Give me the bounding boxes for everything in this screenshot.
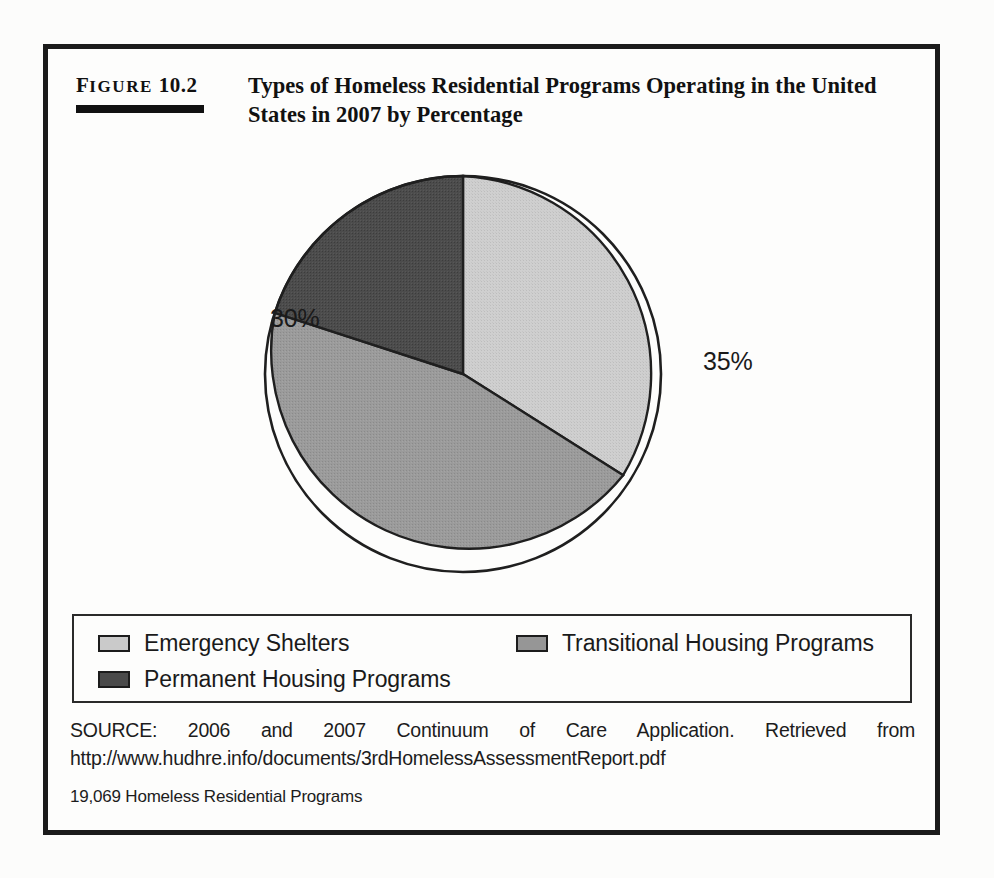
figure-container: FIGURE 10.2 Types of Homeless Residentia…: [43, 44, 940, 835]
legend-item-transitional-housing-programs: Transitional Housing Programs: [516, 630, 874, 657]
legend-label-permanent-housing-programs: Permanent Housing Programs: [144, 666, 451, 693]
figure-number: FIGURE 10.2: [76, 73, 248, 98]
chart-legend: Emergency Shelters Transitional Housing …: [72, 614, 912, 703]
source-block: SOURCE: 2006 and 2007 Continuum of Care …: [70, 717, 915, 807]
pie-value-label-permanent-housing-programs: 30%: [270, 304, 319, 333]
figure-number-prefix: F: [76, 73, 89, 97]
legend-item-emergency-shelters: Emergency Shelters: [98, 630, 349, 657]
page-title: Types of Homeless Residential Programs O…: [248, 71, 915, 129]
legend-swatch-permanent-housing-programs: [98, 671, 130, 688]
pie-value-label-emergency-shelters: 35%: [703, 347, 752, 376]
legend-label-transitional-housing-programs: Transitional Housing Programs: [562, 630, 874, 657]
figure-number-word: IGURE: [89, 77, 153, 96]
figure-title-block: FIGURE 10.2 Types of Homeless Residentia…: [76, 71, 915, 129]
source-note: 19,069 Homeless Residential Programs: [70, 787, 915, 807]
legend-label-emergency-shelters: Emergency Shelters: [144, 630, 349, 657]
figure-number-value: 10.2: [159, 73, 198, 97]
legend-swatch-emergency-shelters: [98, 635, 130, 652]
legend-item-permanent-housing-programs: Permanent Housing Programs: [98, 666, 451, 693]
legend-swatch-transitional-housing-programs: [516, 635, 548, 652]
source-citation: SOURCE: 2006 and 2007 Continuum of Care …: [70, 717, 915, 772]
figure-number-column: FIGURE 10.2: [76, 71, 248, 113]
pie-chart-area: 35% 30% 35%: [48, 154, 935, 604]
figure-rule-divider: [76, 105, 204, 113]
pie-chart: [253, 164, 673, 584]
